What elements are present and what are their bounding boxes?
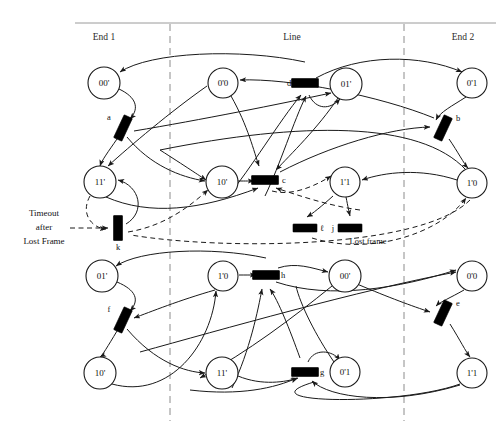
timeout-note-line-1: Timeout [29, 208, 60, 218]
transition-bar [114, 216, 123, 241]
place-label: 11' [95, 177, 106, 187]
arc-top-b-to-1x0 [449, 139, 468, 168]
arc-bot-00-to-e [357, 284, 430, 312]
transition-bar [114, 115, 133, 141]
transition-f[interactable]: f [108, 304, 133, 333]
place-label: 11' [217, 368, 228, 378]
transition-label: f [108, 304, 111, 314]
place-bot-1x1[interactable]: 1'1 [457, 358, 487, 388]
transition-e[interactable]: e [434, 298, 460, 326]
arc-top-00line-to-c [231, 96, 259, 166]
transition-l[interactable]: ℓ [293, 223, 324, 233]
place-top-01a[interactable]: 01' [330, 68, 362, 100]
place-top-1x0[interactable]: 1'0 [457, 168, 487, 198]
place-label: 1'1 [340, 177, 351, 187]
arc-bot-01-to-f [117, 282, 135, 311]
transition-label: b [456, 113, 460, 123]
arc-top-0x1-to-b [436, 97, 466, 120]
timeout-note-line-2: after [36, 222, 52, 232]
arc-bot-long-to-0x0 [140, 272, 456, 352]
place-bot-01a[interactable]: 01' [86, 260, 118, 292]
arc-top-1x1-to-l [307, 196, 333, 217]
transition-label: j [331, 223, 334, 233]
transition-bar [293, 224, 317, 232]
timeout-note-line-3: Lost Frame [23, 236, 64, 246]
lane-title-line: Line [283, 32, 300, 42]
timeout-after-lost-frame-note: Timeout after Lost Frame [23, 208, 64, 246]
arc-top-1x1-to-j [346, 197, 350, 216]
transition-bar [252, 176, 279, 185]
petri-net-diagram: End 1 Line End 2 [0, 0, 503, 425]
place-top-1x1[interactable]: 1'1 [330, 167, 360, 197]
arc-top-l-to-1x0-dashed [312, 198, 466, 244]
lane-frame [75, 23, 496, 421]
transition-bar [434, 300, 453, 326]
place-label: 10' [217, 177, 228, 187]
place-label: 01' [341, 79, 352, 89]
place-top-0x0[interactable]: 0'0 [208, 68, 238, 98]
place-top-11a[interactable]: 11' [84, 166, 116, 198]
place-label: 00' [99, 78, 110, 88]
place-bot-00a[interactable]: 00' [329, 260, 361, 292]
transition-k[interactable]: k [114, 216, 123, 253]
place-label: 0'1 [340, 367, 351, 377]
arc-bot-f-to-10 [100, 331, 117, 357]
place-top-0x1[interactable]: 0'1 [457, 68, 487, 98]
arc-top-d-to-00 [120, 54, 305, 72]
arc-bot-1x1-to-g [312, 381, 460, 398]
transition-bar [292, 368, 319, 377]
transition-c[interactable]: c [252, 175, 287, 185]
transition-bar [114, 307, 133, 333]
place-label: 0'0 [467, 271, 478, 281]
arc-bot-h-to-01 [116, 251, 266, 266]
transition-label: h [281, 270, 286, 280]
place-label: 1'0 [218, 271, 229, 281]
place-bot-10a[interactable]: 10' [84, 357, 116, 389]
place-top-00a[interactable]: 00' [88, 67, 120, 99]
arc-bot-left-to-g [190, 378, 297, 392]
place-label: 0'1 [467, 78, 478, 88]
transition-bar [253, 271, 280, 280]
arc-bot-1x0-to-f [134, 290, 215, 318]
transition-h[interactable]: h [253, 270, 286, 280]
transition-label: ℓ [320, 223, 324, 233]
place-label: 10' [95, 368, 106, 378]
transition-label: e [456, 298, 460, 308]
place-label: 1'1 [467, 368, 478, 378]
arc-bot-g-to-h [270, 289, 300, 358]
place-bot-11a[interactable]: 11' [206, 357, 238, 389]
arc-top-c-to-b [280, 127, 430, 172]
arc-bot-f-to-11 [127, 329, 205, 373]
arc-top-a-to-11 [100, 139, 117, 166]
lane-titles: End 1 Line End 2 [93, 32, 475, 42]
lane-title-end2: End 2 [452, 32, 475, 42]
lost-frame-caption: Lost frame [349, 236, 386, 246]
arc-top-k-to-10-dashed [128, 190, 208, 232]
transition-label: c [282, 175, 286, 185]
arc-top-1x0-to-1x1 [362, 172, 457, 180]
transition-g[interactable]: g [292, 367, 325, 377]
arc-top-c-to-1x1-dashed [272, 176, 331, 193]
place-label: 1'0 [467, 178, 478, 188]
transition-j[interactable]: j [331, 223, 362, 233]
place-label: 0'0 [218, 78, 229, 88]
transition-label: a [107, 112, 111, 122]
place-top-10a[interactable]: 10' [206, 166, 238, 198]
arc-group-top [70, 54, 470, 245]
transitions-group: a b c d e f g h [107, 78, 460, 377]
arc-top-1x0-long-left [160, 130, 466, 170]
place-bot-0x0[interactable]: 0'0 [457, 261, 487, 291]
arc-bot-1x1-low-sweep [295, 382, 460, 400]
arc-bot-e-to-1x1 [450, 324, 470, 357]
place-bot-1x0[interactable]: 1'0 [208, 261, 238, 291]
arc-bot-0x1-up [296, 286, 334, 362]
arc-top-long-dashed-return [131, 200, 470, 244]
transition-a[interactable]: a [107, 112, 132, 141]
lane-title-end1: End 1 [93, 32, 116, 42]
arc-bot-h-to-00 [278, 265, 328, 272]
transition-bar [338, 224, 362, 232]
transition-d[interactable]: d [287, 78, 319, 88]
arc-top-00-to-a [119, 89, 135, 119]
place-bot-0x1[interactable]: 0'1 [330, 357, 360, 387]
place-label: 00' [340, 271, 351, 281]
